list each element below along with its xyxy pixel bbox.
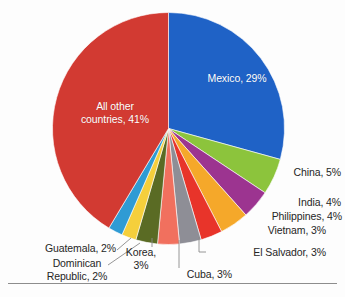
slice-label-cuba: Cuba, 3% <box>156 268 232 281</box>
slice-label-mexico: Mexico, 29% <box>185 72 289 85</box>
slice-label-guatemala: Guatemala, 2% <box>6 242 116 255</box>
pie-chart-figure: Mexico, 29% All other countries, 41% Chi… <box>0 0 345 297</box>
footer-divider <box>8 283 337 284</box>
slice-label-philippines: Philippines, 4% <box>230 210 342 223</box>
slice-label-el-salvador: El Salvador, 3% <box>208 246 326 259</box>
slice-label-india: India, 4% <box>258 196 341 209</box>
slice-label-all-other-countries: All other countries, 41% <box>62 100 168 125</box>
slice-label-china: China, 5% <box>255 166 341 179</box>
slice-label-dominican-republic: Dominican Republic, 2% <box>29 257 125 282</box>
slice-label-vietnam: Vietnam, 3% <box>222 224 326 237</box>
